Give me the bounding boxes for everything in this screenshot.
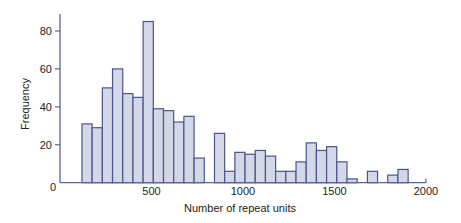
histogram-bar: [153, 109, 163, 183]
histogram-bar: [306, 143, 316, 183]
histogram-bar: [194, 158, 204, 183]
histogram-bar: [123, 94, 133, 183]
histogram-bar: [265, 156, 275, 183]
y-tick-label: 0: [50, 181, 56, 193]
histogram-bar: [245, 154, 255, 182]
histogram-bar: [398, 169, 408, 182]
histogram-bar: [184, 116, 194, 182]
x-tick-label: 1000: [231, 185, 255, 197]
y-ticks: 020406080: [40, 25, 60, 193]
y-tick-label: 20: [40, 139, 52, 151]
histogram-chart: 020406080 500100015002000 Number of repe…: [0, 0, 461, 223]
histogram-bar: [235, 152, 245, 182]
histogram-bar: [82, 124, 92, 183]
histogram-bar: [255, 150, 265, 182]
histogram-bar: [327, 147, 337, 183]
histogram-bar: [102, 88, 112, 183]
y-tick-label: 80: [40, 25, 52, 37]
y-tick-label: 60: [40, 63, 52, 75]
histogram-bar: [113, 69, 123, 183]
x-tick-label: 500: [142, 185, 160, 197]
histogram-bar: [337, 162, 347, 183]
histogram-bar: [316, 150, 326, 182]
x-tick-label: 1500: [322, 185, 346, 197]
histogram-bar: [367, 171, 377, 182]
histogram-bar: [214, 133, 224, 182]
histogram-bar: [286, 171, 296, 182]
histogram-bar: [296, 162, 306, 183]
y-axis-label: Frequency: [19, 78, 31, 130]
histogram-bar: [133, 97, 143, 182]
histogram-bar: [225, 171, 235, 182]
histogram-bar: [276, 171, 286, 182]
y-tick-label: 40: [40, 101, 52, 113]
histogram-bars: [82, 22, 408, 183]
histogram-bar: [143, 22, 153, 183]
histogram-bar: [164, 111, 174, 183]
x-tick-label: 2000: [414, 185, 438, 197]
histogram-bar: [174, 122, 184, 183]
histogram-bar: [92, 128, 102, 183]
histogram-bar: [388, 175, 398, 183]
x-axis-label: Number of repeat units: [184, 202, 296, 214]
